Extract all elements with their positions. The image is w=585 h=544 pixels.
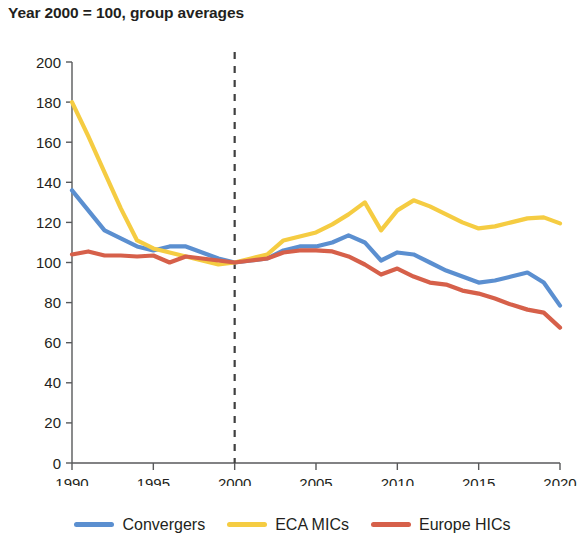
legend-item-europe-hics[interactable]: Europe HICs [371,516,511,534]
legend-item-label: Europe HICs [419,516,511,534]
y-axis-tick-label: 180 [36,94,61,111]
series-line-europe-hics [72,250,560,327]
chart-legend: ConvergersECA MICsEurope HICs [0,505,585,544]
legend-item-eca-mics[interactable]: ECA MICs [227,516,349,534]
series-line-eca-mics [72,102,560,264]
x-axis-tick-label: 1990 [55,475,88,486]
x-axis: 1990199520002005201020152020 [55,463,576,486]
x-axis-tick-label: 2020 [543,475,576,486]
legend-item-label: Convergers [122,516,205,534]
y-axis-tick-label: 0 [53,455,61,472]
data-series-group [72,102,560,328]
legend-line-swatch-icon [371,522,411,527]
y-axis-tick-label: 60 [44,334,61,351]
page-title: Year 2000 = 100, group averages [8,4,244,22]
y-axis-tick-label: 200 [36,54,61,71]
x-axis-tick-label: 2015 [462,475,495,486]
x-axis-tick-label: 2000 [218,475,251,486]
y-axis-tick-label: 120 [36,214,61,231]
y-axis-tick-label: 20 [44,414,61,431]
x-axis-tick-label: 1995 [137,475,170,486]
y-axis-tick-label: 40 [44,374,61,391]
y-axis-tick-label: 100 [36,254,61,271]
x-axis-tick-label: 2010 [381,475,414,486]
line-chart-svg: 020406080100120140160180200 199019952000… [0,46,585,486]
y-axis: 020406080100120140160180200 [36,54,72,472]
plot-area: 020406080100120140160180200 199019952000… [0,46,585,486]
chart-figure: Year 2000 = 100, group averages 02040608… [0,0,585,544]
y-axis-tick-label: 80 [44,294,61,311]
legend-line-swatch-icon [74,522,114,527]
series-line-convergers [72,190,560,305]
y-axis-tick-label: 160 [36,134,61,151]
y-axis-tick-label: 140 [36,174,61,191]
legend-line-swatch-icon [227,522,267,527]
legend-item-label: ECA MICs [275,516,349,534]
x-axis-tick-label: 2005 [299,475,332,486]
legend-item-convergers[interactable]: Convergers [74,516,205,534]
